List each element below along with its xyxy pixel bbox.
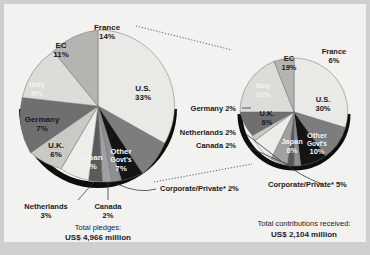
pie1-pct-uk: 6% — [50, 150, 62, 159]
pie1-label-us: U.S. — [135, 84, 151, 93]
pie1-pct-us: 33% — [135, 93, 151, 102]
pie1-label-germany: Germany — [25, 115, 60, 124]
pie1-pct-japan: 5% — [85, 162, 97, 171]
pie1-label-uk: U.K. — [48, 141, 64, 150]
pie2-callout-canada: Canada 2% — [196, 141, 236, 150]
pie1-pct-other-govts: 7% — [115, 164, 127, 173]
pie1-leader-corporate — [117, 184, 156, 191]
pie1-callout-corporate: Corporate/Private* 2% — [160, 184, 239, 193]
pie-charts-svg: U.S. 33% France 14% EC 11% Italy 9% Germ… — [4, 4, 366, 242]
pie2-pct-other-govts: 10% — [309, 147, 324, 156]
pie2-pct-us: 30% — [315, 104, 330, 113]
pie1-label-italy: Italy — [29, 80, 46, 89]
pie2-pct-uk: 6% — [262, 118, 273, 127]
pie2-label-ec: EC — [284, 54, 295, 63]
connector-line-bottom — [154, 164, 252, 182]
pie2-label-france: France — [322, 47, 347, 56]
pie2-pct-italy: 10% — [255, 90, 270, 99]
pie1-callout-canada: Canada — [94, 202, 122, 211]
pie1-pct-ec: 11% — [53, 50, 69, 59]
pie1-total-line2: US$ 4,966 million — [65, 233, 131, 242]
pie1-label-other-govts: Other — [110, 147, 131, 156]
pie2-total-line1: Total contributions received: — [258, 219, 351, 228]
pie2-callout-germany: Germany 2% — [191, 104, 237, 113]
pie-chart-contributions: U.S. 30% France 6% EC 19% Italy 10% U.K.… — [180, 47, 351, 239]
pie1-pct-france: 14% — [99, 32, 115, 41]
pie1-label-other-govts-2: Govt's — [110, 156, 132, 163]
pie1-callout-netherlands: Netherlands — [24, 202, 67, 211]
pie2-pct-france: 6% — [329, 56, 340, 65]
pie2-total-line2: US$ 2,104 million — [271, 230, 337, 239]
pie1-label-france: France — [94, 23, 121, 32]
pie1-label-ec: EC — [55, 41, 66, 50]
pie1-label-japan: Japan — [79, 153, 102, 162]
pie2-pct-ec: 19% — [281, 63, 296, 72]
pie2-pct-japan: 8% — [287, 146, 298, 155]
pie2-callout-corporate: Corporate/Private* 5% — [268, 180, 347, 189]
pie1-callout-canada-pct: 2% — [103, 211, 114, 220]
pie2-callout-netherlands: Netherlands 2% — [180, 128, 237, 137]
pie2-label-uk: U.K. — [260, 109, 275, 118]
pie2-label-japan: Japan — [281, 137, 303, 146]
pie1-pct-germany: 7% — [36, 124, 48, 133]
pie2-label-other-govts: Other — [307, 131, 327, 140]
pie2-label-us: U.S. — [316, 95, 331, 104]
figure-panel: U.S. 33% France 14% EC 11% Italy 9% Germ… — [4, 4, 366, 242]
pie1-pct-italy: 9% — [31, 89, 43, 98]
pie1-callout-netherlands-pct: 3% — [41, 211, 52, 220]
pie2-label-italy: Italy — [255, 81, 271, 90]
pie1-total-line1: Total pledges: — [75, 223, 121, 232]
pie2-label-other-govts-2: Govt's — [307, 140, 327, 147]
connector-line-top — [136, 26, 232, 50]
